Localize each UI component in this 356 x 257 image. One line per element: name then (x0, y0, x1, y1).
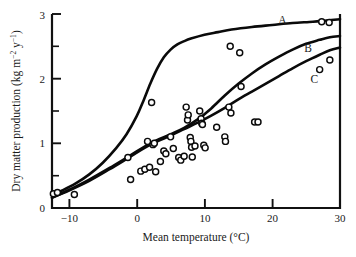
x-ticklabel--10: −10 (61, 212, 79, 224)
y-ticklabel-1: 1 (40, 137, 46, 149)
data-point (149, 100, 155, 106)
curves-layer (52, 19, 340, 197)
x-axis-ticks (69, 199, 340, 208)
x-axis-title: Mean temperature (°C) (143, 231, 250, 244)
data-point (151, 140, 157, 146)
y-axis-title: Dry matter production (kg m−2 y−1) (9, 30, 23, 192)
y-axis-tick-labels: 0 1 2 3 (40, 9, 46, 215)
x-axis-title-text: Mean temperature (°C) (143, 231, 250, 244)
data-point (147, 164, 153, 170)
figure-container: 0 1 2 3 −10 0 10 20 30 Mean temperature … (0, 0, 356, 257)
data-point (128, 177, 134, 183)
data-point (170, 146, 176, 152)
data-point (317, 67, 323, 73)
data-point (255, 119, 261, 125)
data-point (202, 145, 208, 151)
data-point (228, 110, 234, 116)
data-point (227, 43, 233, 49)
y-axis-title-mid: y (10, 42, 23, 51)
y-axis-title-sup-time: −1 (9, 34, 18, 42)
curve-label-c: C (310, 73, 318, 85)
y-axis-title-prefix: Dry matter production (kg m (10, 59, 23, 192)
data-point (192, 143, 198, 149)
y-axis-title-close: ) (10, 30, 23, 34)
x-ticklabel-0: 0 (134, 212, 140, 224)
data-point (71, 191, 77, 197)
curve-label-a: A (278, 14, 287, 26)
data-point (197, 108, 203, 114)
x-ticklabel-30: 30 (335, 212, 347, 224)
data-point (199, 122, 205, 128)
y-ticklabel-0: 0 (40, 202, 46, 214)
curve-b-line (52, 36, 340, 198)
data-point (214, 124, 220, 130)
data-point (153, 169, 159, 175)
data-point (163, 151, 169, 157)
data-point (54, 189, 60, 195)
data-point (168, 134, 174, 140)
data-point (183, 104, 189, 110)
data-point (181, 153, 187, 159)
y-ticklabel-3: 3 (40, 9, 46, 21)
curve-a-line (52, 19, 340, 195)
x-ticklabel-10: 10 (199, 212, 211, 224)
y-axis-title-sup-area: −2 (9, 51, 18, 59)
data-point (222, 138, 228, 144)
curve-label-b: B (304, 42, 312, 54)
data-point (326, 19, 332, 25)
data-point (189, 154, 195, 160)
x-ticklabel-20: 20 (267, 212, 279, 224)
data-point (327, 57, 333, 63)
data-point (319, 19, 325, 25)
chart-svg: 0 1 2 3 −10 0 10 20 30 Mean temperature … (0, 0, 356, 257)
data-point (238, 83, 244, 89)
curve-labels-layer: ABC (278, 14, 318, 85)
y-axis-ticks (52, 14, 61, 208)
y-ticklabel-2: 2 (40, 73, 46, 85)
data-point (157, 158, 163, 164)
data-point (125, 155, 131, 161)
data-point (237, 50, 243, 56)
data-point (185, 112, 191, 118)
x-axis-tick-labels: −10 0 10 20 30 (61, 212, 346, 224)
